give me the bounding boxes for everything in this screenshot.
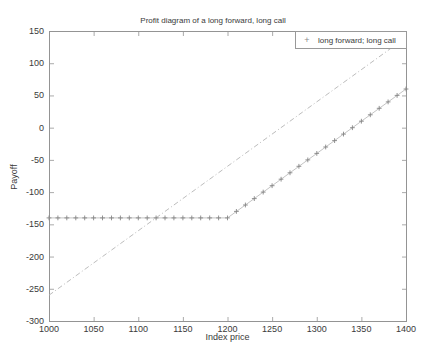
plus-marker-icon: +: [296, 36, 318, 45]
series-line-long-forward: [49, 37, 406, 295]
y-tick-label: -50: [31, 155, 44, 165]
x-axis-label: Index price: [49, 332, 406, 342]
y-tick-label: 50: [34, 90, 44, 100]
y-tick-label: 100: [29, 58, 44, 68]
y-tick-label: -300: [26, 316, 44, 326]
series-line-long-call: [49, 89, 406, 218]
plot-area: 1000105011001150120012501300135014001501…: [0, 0, 433, 360]
legend-box: + long forward; long call: [295, 31, 407, 49]
chart-title: Profit diagram of a long forward, long c…: [0, 16, 426, 25]
plot-border: [50, 32, 407, 322]
y-tick-label: -150: [26, 219, 44, 229]
plus-markers-long-call: [47, 87, 409, 221]
y-tick-label: 150: [29, 26, 44, 36]
y-tick-label: -100: [26, 187, 44, 197]
y-axis-label: Payoff: [9, 164, 19, 189]
y-tick-label: 0: [39, 123, 44, 133]
y-tick-label: -200: [26, 252, 44, 262]
y-tick-label: -250: [26, 284, 44, 294]
legend-label: long forward; long call: [318, 36, 396, 45]
figure: 1000105011001150120012501300135014001501…: [0, 0, 433, 360]
